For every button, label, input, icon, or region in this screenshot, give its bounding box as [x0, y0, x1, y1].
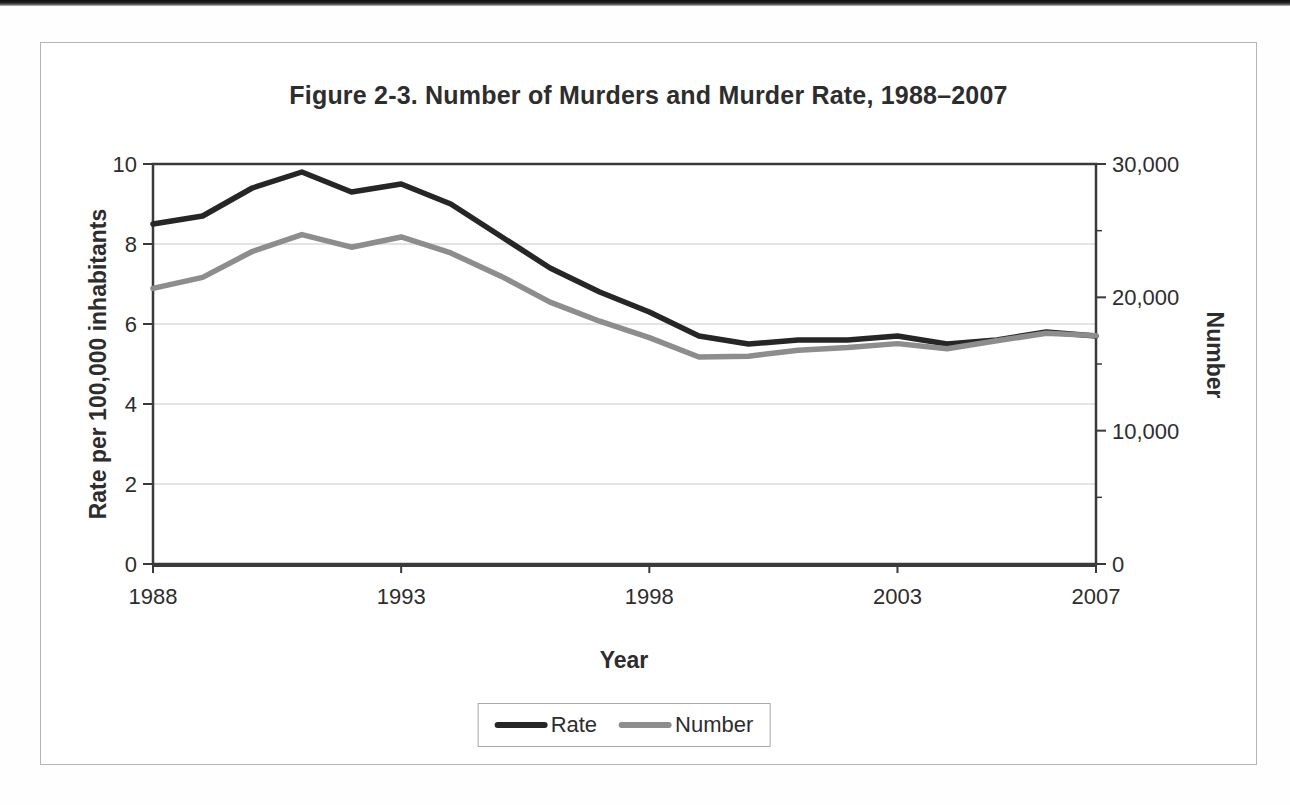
scanned-page: Figure 2-3. Number of Murders and Murder… [0, 0, 1290, 805]
y-right-tick-label: 30,000 [1112, 152, 1179, 177]
number-line-swatch [619, 722, 672, 728]
x-tick-label: 1993 [377, 584, 426, 609]
y-left-tick-label: 2 [125, 472, 137, 497]
y-axis-title-left: Rate per 100,000 inhabitants [85, 209, 112, 520]
y-left-tick-label: 6 [125, 312, 137, 337]
y-right-tick-label: 20,000 [1112, 285, 1179, 310]
y-left-tick-label: 8 [125, 232, 137, 257]
y-left-tick-label: 0 [125, 552, 137, 577]
number-line [153, 235, 1096, 357]
x-axis-title: Year [600, 647, 649, 674]
scan-artifact-top-bar [0, 0, 1290, 6]
y-right-tick-label: 0 [1112, 552, 1124, 577]
chart-legend: Rate Number [478, 703, 771, 747]
figure-container: Figure 2-3. Number of Murders and Murder… [40, 42, 1257, 765]
x-tick-label: 1988 [129, 584, 178, 609]
y-left-tick-label: 10 [113, 152, 137, 177]
legend-item-rate: Rate [495, 712, 597, 738]
y-axis-title-right: Number [1201, 312, 1228, 399]
x-tick-label: 1998 [625, 584, 674, 609]
x-tick-label: 2007 [1072, 584, 1121, 609]
legend-item-number: Number [619, 712, 753, 738]
rate-line-swatch [495, 722, 548, 728]
y-right-tick-label: 10,000 [1112, 419, 1179, 444]
y-left-tick-label: 4 [125, 392, 137, 417]
plot-border [153, 164, 1096, 564]
x-tick-label: 2003 [873, 584, 922, 609]
rate-line [153, 172, 1096, 344]
legend-label-rate: Rate [551, 712, 597, 738]
legend-label-number: Number [675, 712, 753, 738]
